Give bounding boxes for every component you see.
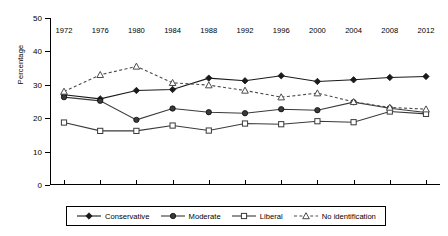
- plot-area: 01020304050 1972197619801984198819921996…: [50, 18, 440, 185]
- y-tick-label: 30: [33, 80, 42, 89]
- legend-item-moderate[interactable]: Moderate: [160, 211, 221, 221]
- legend-label: No identification: [322, 212, 376, 221]
- legend-key-open-square-icon: [231, 211, 257, 221]
- y-tick-label: 10: [33, 147, 42, 156]
- legend-item-no-identification[interactable]: No identification: [293, 211, 376, 221]
- y-axis-title: Percentage: [16, 25, 25, 105]
- y-tick-label: 20: [33, 114, 42, 123]
- y-tick-label: 50: [33, 14, 42, 23]
- legend-item-conservative[interactable]: Conservative: [76, 211, 149, 221]
- legend-key-filled-circle-icon: [160, 211, 186, 221]
- series-layer: [50, 18, 440, 185]
- y-tick-label: 40: [33, 47, 42, 56]
- legend-key-open-triangle-icon: [293, 211, 319, 221]
- chart-legend: ConservativeModerateLiberalNo identifica…: [66, 206, 386, 226]
- legend-label: Liberal: [260, 212, 283, 221]
- legend-label: Moderate: [189, 212, 221, 221]
- y-tick-label: 0: [38, 181, 42, 190]
- y-tick-mark: [45, 185, 50, 186]
- chart-figure: Percentage 01020304050 19721976198019841…: [0, 0, 448, 236]
- legend-label: Conservative: [105, 212, 149, 221]
- legend-item-liberal[interactable]: Liberal: [231, 211, 283, 221]
- series-no-identification: [61, 63, 430, 112]
- legend-key-filled-diamond-icon: [76, 211, 102, 221]
- series-moderate: [61, 94, 428, 122]
